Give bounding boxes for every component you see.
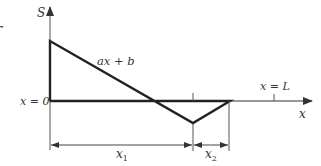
dim-x2-label: x2 <box>205 147 217 163</box>
dim-x1-label: x1 <box>116 147 128 163</box>
line-equation-label: ax + b <box>97 54 135 68</box>
x-axis-label: x <box>299 107 306 121</box>
diagram-canvas: r S x ax + b x = 0 x = L x1 x2 <box>0 0 321 166</box>
s-axis-label: S <box>37 6 45 20</box>
s-profile-line <box>50 41 230 123</box>
origin-label: x = 0 <box>20 95 49 108</box>
end-label: x = L <box>260 80 290 93</box>
edge-glyph: r <box>0 21 3 36</box>
